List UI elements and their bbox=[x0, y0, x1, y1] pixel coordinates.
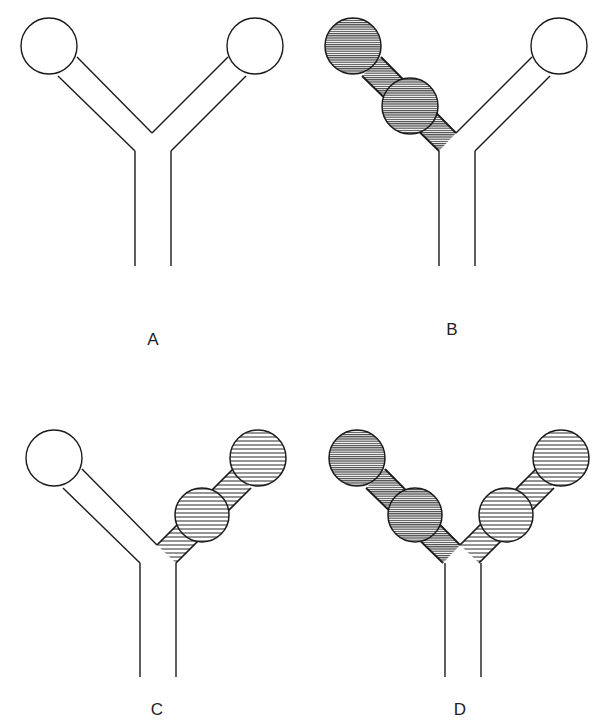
right-inner-bound-site bbox=[479, 488, 533, 542]
left-antigen-site bbox=[21, 18, 77, 74]
right-inner-bound-site bbox=[175, 488, 229, 542]
right-outer-bound-site bbox=[533, 430, 589, 486]
left-outer-bound-site bbox=[329, 430, 385, 486]
panel-a bbox=[21, 18, 283, 266]
panel-d-label: D bbox=[445, 700, 475, 720]
right-outer-bound-site bbox=[230, 430, 286, 486]
right-antigen-site bbox=[531, 18, 587, 74]
panel-a-label: A bbox=[138, 330, 168, 350]
stem bbox=[439, 151, 475, 266]
right-arm bbox=[456, 57, 550, 151]
left-outer-bound-site bbox=[325, 18, 381, 74]
right-antigen-site bbox=[227, 18, 283, 74]
left-arm bbox=[63, 469, 157, 563]
panel-c-label: C bbox=[142, 700, 172, 720]
left-antigen-site bbox=[26, 430, 82, 486]
left-arm bbox=[58, 57, 152, 151]
panel-b bbox=[325, 18, 587, 266]
left-inner-bound-site bbox=[388, 488, 442, 542]
y-molecule-diagram bbox=[0, 0, 608, 724]
panel-c bbox=[26, 430, 286, 677]
stem bbox=[135, 151, 171, 266]
right-arm bbox=[152, 57, 246, 151]
stem bbox=[140, 563, 176, 677]
stem bbox=[445, 563, 481, 677]
panel-d bbox=[329, 430, 589, 677]
left-inner-bound-site bbox=[382, 78, 438, 134]
panel-b-label: B bbox=[437, 320, 467, 340]
